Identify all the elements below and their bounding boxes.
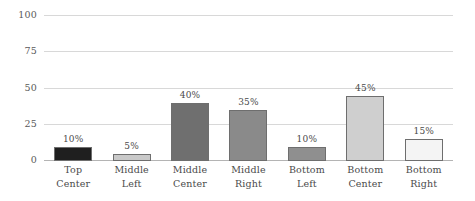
category-label-line-1: Bottom: [278, 163, 336, 177]
bar-group: 45%: [336, 16, 394, 161]
bar[interactable]: [229, 110, 267, 161]
bar[interactable]: [288, 147, 326, 162]
category-label-line-1: Bottom: [395, 163, 453, 177]
bar-value-label: 15%: [413, 126, 434, 136]
x-axis-category-label: MiddleRight: [219, 163, 277, 190]
x-axis-category-label: BottomLeft: [278, 163, 336, 190]
bar[interactable]: [113, 154, 151, 161]
category-label-line-1: Bottom: [336, 163, 394, 177]
category-label-line-2: Center: [161, 177, 219, 191]
ytick-label-25: 25: [25, 118, 38, 129]
bar-group: 40%: [161, 16, 219, 161]
bar-group: 5%: [102, 16, 160, 161]
x-axis-category-label: BottomCenter: [336, 163, 394, 190]
category-label-line-2: Right: [395, 177, 453, 191]
bar-value-label: 35%: [238, 97, 259, 107]
bar[interactable]: [54, 147, 92, 162]
bars-layer: 10%5%40%35%10%45%15%: [44, 16, 453, 161]
ytick-label-75: 75: [25, 46, 38, 57]
category-label-line-2: Left: [278, 177, 336, 191]
x-axis-category-label: MiddleLeft: [102, 163, 160, 190]
bar-chart: 100 75 50 25 0 10%5%40%35%10%45%15% TopC…: [0, 0, 475, 201]
x-axis-category-label: MiddleCenter: [161, 163, 219, 190]
category-label-line-2: Left: [102, 177, 160, 191]
bar-value-label: 10%: [63, 134, 84, 144]
category-label-line-2: Center: [336, 177, 394, 191]
category-label-line-2: Center: [44, 177, 102, 191]
bar-value-label: 40%: [180, 90, 201, 100]
bar-group: 15%: [395, 16, 453, 161]
bar-group: 10%: [44, 16, 102, 161]
category-label-line-1: Top: [44, 163, 102, 177]
bar-value-label: 10%: [297, 134, 318, 144]
category-label-line-2: Right: [219, 177, 277, 191]
bar-group: 10%: [278, 16, 336, 161]
category-label-line-1: Middle: [219, 163, 277, 177]
x-axis-labels: TopCenterMiddleLeftMiddleCenterMiddleRig…: [44, 163, 453, 201]
bar[interactable]: [346, 96, 384, 161]
x-axis-category-label: TopCenter: [44, 163, 102, 190]
bar-group: 35%: [219, 16, 277, 161]
bar-value-label: 45%: [355, 83, 376, 93]
category-label-line-1: Middle: [102, 163, 160, 177]
plot-area: 100 75 50 25 0 10%5%40%35%10%45%15%: [44, 16, 453, 161]
ytick-label-100: 100: [18, 9, 37, 20]
x-axis-category-label: BottomRight: [395, 163, 453, 190]
bar[interactable]: [405, 139, 443, 161]
ytick-label-50: 50: [25, 82, 38, 93]
ytick-label-0: 0: [31, 154, 37, 165]
category-label-line-1: Middle: [161, 163, 219, 177]
bar-value-label: 5%: [124, 141, 139, 151]
bar[interactable]: [171, 103, 209, 161]
